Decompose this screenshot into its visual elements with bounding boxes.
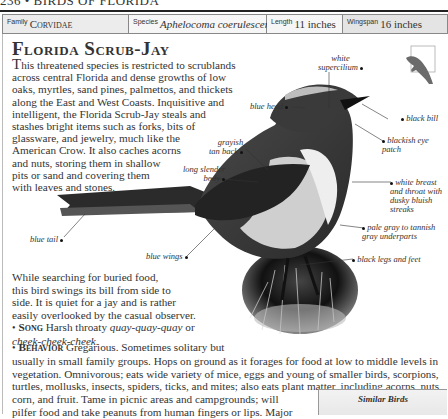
species-title: Florida Scrub-Jay xyxy=(12,38,170,60)
intro-line: across central Florida and dense growths… xyxy=(12,71,242,83)
bullet-icon: • xyxy=(12,342,16,353)
callout-blue-head: blue head xyxy=(250,102,288,111)
callout-pale-gray-underparts: pale gray to tannish gray underparts xyxy=(362,223,435,241)
intro-line: along the East and West Coasts. Inquisit… xyxy=(12,96,242,108)
callout-long-slender-body: long slender body xyxy=(183,165,225,183)
intro-line: oaks, myrtles, sand pines, palmettos, an… xyxy=(12,83,242,95)
song-section: •Song Harsh throaty quay-quay-quay or xyxy=(12,321,262,335)
intro-line: glassware, and jewelry, much like the xyxy=(12,132,242,144)
callout-white-breast: white breast and throat with dusky bluis… xyxy=(390,178,442,214)
callout-blue-tail: blue tail xyxy=(30,235,63,244)
behavior-heading: Behavior xyxy=(19,341,64,353)
intro-line: intelligent, the Florida Scrub-Jay steal… xyxy=(12,108,242,120)
similar-birds-title: Similar Birds xyxy=(319,394,447,404)
song-call-1: quay-quay-quay xyxy=(110,321,183,333)
similar-birds-box: Similar Birds xyxy=(318,389,447,415)
callout-white-supercilium: white supercilium xyxy=(318,54,363,72)
bullet-icon: • xyxy=(12,322,16,333)
intro-line: This threatened species is restricted to… xyxy=(12,58,242,71)
callout-black-legs: black legs and feet xyxy=(352,255,421,264)
intro-line: American Crow. It also caches acorns xyxy=(12,144,242,156)
callout-grayish-tan-back: grayish tan back xyxy=(209,138,243,156)
size-silhouette-icon xyxy=(406,46,435,84)
callout-dot xyxy=(360,67,363,70)
callout-blue-wings: blue wings xyxy=(146,252,188,261)
song-heading: Song xyxy=(19,321,43,333)
callout-blackish-eye-patch: blackish eye patch xyxy=(382,136,429,154)
intro-line: stashes bright items such as forks, bits… xyxy=(12,120,242,132)
foraging-paragraph: While searching for buried food, this bi… xyxy=(12,271,262,348)
drop-cap: T xyxy=(12,56,21,72)
callout-black-bill: black bill xyxy=(401,114,438,123)
